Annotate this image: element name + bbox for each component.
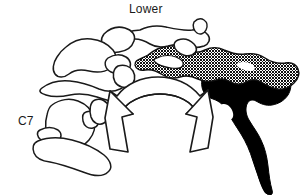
solid-shaded-vertebra — [202, 71, 291, 195]
spine-diagram-canvas — [0, 0, 307, 195]
solid-shaded-vertebra-group — [202, 71, 291, 195]
vertebra-level-label-c7: C7 — [18, 115, 34, 127]
vertebra-body-c6 — [53, 39, 116, 77]
vertebra-c7-inferior-body — [33, 138, 111, 176]
spine-diagram-figure: Lower C7 — [0, 0, 307, 195]
page-title: Lower — [129, 3, 163, 15]
vertebra-superior-spinous-tip — [193, 19, 207, 34]
